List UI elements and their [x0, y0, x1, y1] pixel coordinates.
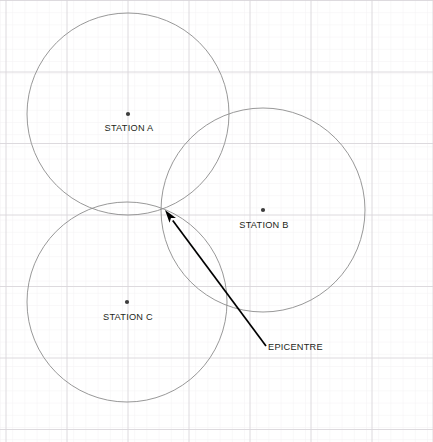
station-b-label: STATION B [239, 220, 288, 230]
diagram-canvas: STATION ASTATION BSTATION C EPICENTRE [0, 0, 433, 442]
epicentre-label: EPICENTRE [268, 342, 323, 352]
station-b-marker-dot [261, 208, 265, 212]
station-a-marker-dot [126, 112, 130, 116]
epicentre-diagram: STATION ASTATION BSTATION C EPICENTRE [0, 0, 433, 442]
station-a-label: STATION A [105, 123, 154, 133]
station-c-label: STATION C [103, 312, 153, 322]
station-c-marker-dot [125, 300, 129, 304]
grid-minor-layer [0, 0, 433, 442]
